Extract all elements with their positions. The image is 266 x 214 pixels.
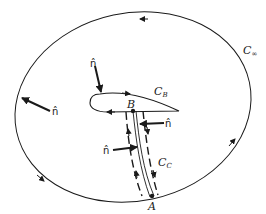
label-point-a: A xyxy=(147,200,156,213)
cut-arrow-right-upper xyxy=(147,127,148,134)
normal-arrow-outer xyxy=(22,98,50,111)
label-c-infinity: C∞ xyxy=(243,44,257,58)
normal-arrow-cut-right xyxy=(140,123,164,124)
label-c-c: CC xyxy=(158,156,172,170)
label-c-infinity-sub: ∞ xyxy=(251,50,257,58)
label-point-b: B xyxy=(126,98,135,111)
cut-arrow-left-upper xyxy=(128,129,129,136)
outer-direction-arrow-right xyxy=(229,139,235,146)
contour-diagram: n̂ n̂ n̂ n̂ C∞ CB CC B A xyxy=(0,0,266,214)
normal-label-outer: n̂ xyxy=(52,106,58,117)
normal-label-body: n̂ xyxy=(90,58,96,69)
label-c-b: CB xyxy=(154,85,168,99)
normal-arrow-body xyxy=(95,66,101,92)
label-c-c-sub: C xyxy=(166,162,172,170)
normal-label-cut-right: n̂ xyxy=(165,118,171,129)
label-c-b-sub: B xyxy=(161,91,167,99)
point-a xyxy=(150,194,154,198)
cut-dashed-path-left xyxy=(126,112,142,196)
normal-arrow-cut-left xyxy=(113,147,137,150)
normal-label-cut-left: n̂ xyxy=(103,145,109,156)
